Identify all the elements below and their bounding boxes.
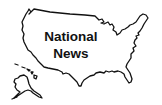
national-news-graphic: National News	[0, 0, 162, 105]
aleutian-islands	[12, 97, 17, 99]
title-line-news: News	[40, 47, 102, 61]
hawaii-island-1	[15, 64, 18, 65]
hawaii-island-3	[27, 69, 30, 71]
hawaii-island-4	[31, 72, 33, 74]
title-line-national: National	[40, 30, 102, 44]
alaska-outline	[14, 75, 42, 98]
hawaii-island-2	[22, 67, 25, 68]
hawaii-island-5	[34, 75, 37, 79]
